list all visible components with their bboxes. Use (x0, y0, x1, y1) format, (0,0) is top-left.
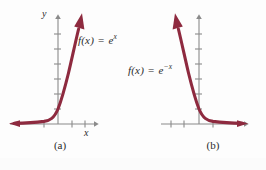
curve-exponential-growth (14, 29, 78, 123)
formula-b-exponent: −x (163, 62, 172, 71)
formula-a-equals: = (97, 34, 105, 46)
y-axis-label-a: y (42, 8, 46, 19)
formula-label-b: f(x) = e−x (128, 62, 172, 76)
page-bottom-margin (0, 158, 266, 170)
formula-a-function: f(x) (78, 34, 94, 46)
curve-arrowhead-left-a (9, 120, 20, 127)
x-axis-label-a: x (84, 127, 88, 138)
formula-label-a: f(x) = ex (78, 32, 117, 46)
curve-exponential-decay (178, 29, 242, 123)
curve-arrowhead-top-b (173, 13, 183, 29)
formula-b-equals: = (147, 64, 155, 76)
formula-b-function: f(x) (128, 64, 144, 76)
formula-a-exponent: x (113, 32, 117, 41)
caption-b: (b) (80, 139, 266, 151)
curve-arrowhead-top-a (74, 13, 84, 29)
curve-arrowhead-right-b (237, 120, 248, 127)
plot-a-svg (0, 0, 133, 138)
figure-exponential-graphs: y x (0, 0, 266, 170)
